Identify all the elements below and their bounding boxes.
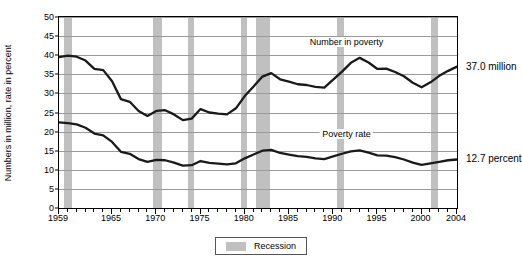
- end-value-label-poverty-rate: 12.7 percent: [466, 153, 522, 164]
- x-axis-minor-tick: [93, 209, 94, 212]
- x-axis-minor-tick: [253, 209, 254, 212]
- y-axis-label-text: Numbers in million, rate in percent: [3, 44, 13, 181]
- x-axis-minor-tick: [412, 209, 413, 212]
- x-axis-minor-tick: [67, 209, 68, 212]
- y-axis-tick-label: 30: [44, 89, 54, 98]
- end-value-label-number-in-poverty: 37.0 million: [466, 60, 517, 71]
- x-axis-minor-tick: [323, 209, 324, 212]
- x-axis-tick-label: 1995: [366, 213, 386, 224]
- y-axis-tick-label: 10: [44, 165, 54, 174]
- chart-root: Numbers in million, rate in percent 0510…: [0, 0, 522, 264]
- x-axis-minor-tick: [235, 209, 236, 212]
- series-line-poverty-rate: [59, 122, 457, 165]
- y-axis-tick-label: 15: [44, 146, 54, 155]
- x-axis-minor-tick: [394, 209, 395, 212]
- x-axis-minor-tick: [368, 209, 369, 212]
- series-annotation-poverty-rate: Poverty rate: [320, 129, 373, 139]
- legend-label-recession: Recession: [254, 241, 296, 251]
- x-axis-minor-tick: [164, 209, 165, 212]
- x-axis-minor-tick: [217, 209, 218, 212]
- x-axis-minor-tick: [85, 209, 86, 212]
- x-axis-minor-tick: [403, 209, 404, 212]
- x-axis-minor-tick: [350, 209, 351, 212]
- x-axis-minor-tick: [173, 209, 174, 212]
- x-axis-tick-label: 2004: [446, 213, 466, 224]
- y-axis-tick-label: 35: [44, 70, 54, 79]
- x-axis-tick-label: 1965: [101, 213, 121, 224]
- x-axis-tick-label: 1980: [234, 213, 254, 224]
- x-axis-minor-tick: [270, 209, 271, 212]
- y-axis-tick-label: 25: [44, 108, 54, 117]
- x-axis-tick-label: 1959: [48, 213, 68, 224]
- x-axis-minor-tick: [208, 209, 209, 212]
- y-axis-tick-label: 40: [44, 51, 54, 60]
- y-axis-tick-label: 0: [49, 204, 54, 213]
- x-axis-tick-label: 2000: [411, 213, 431, 224]
- x-axis-tick-label: 1985: [278, 213, 298, 224]
- x-axis-minor-tick: [341, 209, 342, 212]
- x-axis-minor-tick: [447, 209, 448, 212]
- x-axis-minor-tick: [306, 209, 307, 212]
- series-lines: [59, 17, 457, 208]
- plot-area: 05101520253035404550Number in povertyPov…: [58, 16, 458, 209]
- x-axis-minor-tick: [279, 209, 280, 212]
- x-axis-minor-tick: [429, 209, 430, 212]
- x-axis-labels: 1959196519701975198019851990199520002004: [0, 213, 522, 227]
- x-axis-minor-tick: [102, 209, 103, 212]
- x-axis-minor-tick: [385, 209, 386, 212]
- recession-swatch: [226, 242, 246, 251]
- x-axis-minor-tick: [438, 209, 439, 212]
- y-axis-tick-label: 45: [44, 32, 54, 41]
- y-axis-tick-label: 20: [44, 127, 54, 136]
- x-axis-minor-tick: [261, 209, 262, 212]
- x-axis-minor-tick: [314, 209, 315, 212]
- x-axis-minor-tick: [129, 209, 130, 212]
- y-axis-tick-label: 50: [44, 13, 54, 22]
- x-axis-minor-tick: [138, 209, 139, 212]
- x-axis-tick-label: 1990: [322, 213, 342, 224]
- x-axis-minor-tick: [297, 209, 298, 212]
- x-axis-tick-label: 1970: [145, 213, 165, 224]
- series-annotation-number-in-poverty: Number in poverty: [308, 37, 386, 47]
- x-axis-minor-tick: [182, 209, 183, 212]
- x-axis-minor-tick: [120, 209, 121, 212]
- x-axis-minor-tick: [146, 209, 147, 212]
- x-axis-minor-tick: [191, 209, 192, 212]
- x-axis-minor-tick: [359, 209, 360, 212]
- legend: Recession: [215, 237, 307, 255]
- y-axis-label: Numbers in million, rate in percent: [0, 10, 16, 215]
- x-axis-minor-tick: [226, 209, 227, 212]
- x-axis-minor-tick: [76, 209, 77, 212]
- x-axis-tick-label: 1975: [189, 213, 209, 224]
- series-line-number-in-poverty: [59, 56, 457, 121]
- y-axis-tick-label: 5: [49, 184, 54, 193]
